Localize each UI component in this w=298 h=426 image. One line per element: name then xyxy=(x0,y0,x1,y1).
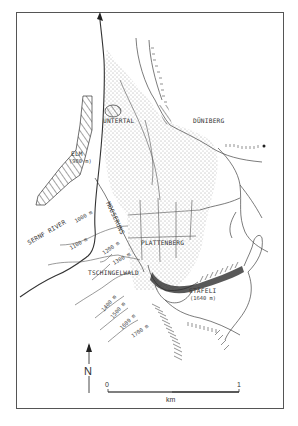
scale-start: 0 xyxy=(105,381,109,388)
scale-end: 1 xyxy=(237,381,241,388)
north-label: N xyxy=(84,365,92,377)
label-untertal: UNTERTAL xyxy=(103,117,134,124)
scale-unit: km xyxy=(166,396,176,403)
label-elm: ELM xyxy=(71,150,83,157)
label-stafeli-elevation: (1640 m) xyxy=(190,295,216,301)
label-duniberg: DÜNIBERG xyxy=(193,117,224,124)
label-tschingelwald: TSCHINGELWALD xyxy=(88,269,139,276)
small-hatched-area xyxy=(105,105,121,117)
landslide-map: UNTERTAL DÜNIBERG ELM (980 m) SERNF RIVE… xyxy=(0,0,298,426)
label-elm-elevation: (980 m) xyxy=(69,158,92,164)
label-stafeli: STÄFELI xyxy=(189,287,217,294)
label-plattenberg: PLATTENBERG xyxy=(141,239,184,246)
